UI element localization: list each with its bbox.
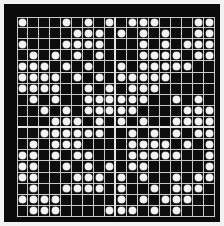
grid-cell-r1-c12[interactable] (138, 17, 149, 28)
grid-cell-r15-c10[interactable] (116, 173, 127, 184)
grid-cell-r15-c1[interactable] (17, 173, 28, 184)
grid-cell-r5-c9[interactable] (105, 61, 116, 72)
grid-cell-r9-c3[interactable] (39, 106, 50, 117)
grid-cell-r13-c14[interactable] (160, 150, 171, 161)
grid-cell-r13-c15[interactable] (171, 150, 182, 161)
grid-cell-r3-c18[interactable] (204, 39, 215, 50)
grid-cell-r13-c17[interactable] (193, 150, 204, 161)
grid-cell-r12-c13[interactable] (149, 139, 160, 150)
grid-cell-r10-c5[interactable] (61, 117, 72, 128)
grid-cell-r11-c6[interactable] (72, 128, 83, 139)
grid-cell-r12-c8[interactable] (94, 139, 105, 150)
grid-cell-r17-c2[interactable] (28, 195, 39, 206)
grid-cell-r8-c4[interactable] (50, 95, 61, 106)
grid-cell-r18-c8[interactable] (94, 206, 105, 217)
grid-cell-r17-c5[interactable] (61, 195, 72, 206)
grid-cell-r2-c14[interactable] (160, 28, 171, 39)
grid-cell-r3-c5[interactable] (61, 39, 72, 50)
grid-cell-r6-c7[interactable] (83, 73, 94, 84)
grid-cell-r17-c17[interactable] (193, 195, 204, 206)
grid-cell-r17-c4[interactable] (50, 195, 61, 206)
grid-cell-r1-c3[interactable] (39, 17, 50, 28)
grid-cell-r12-c16[interactable] (182, 139, 193, 150)
grid-cell-r13-c5[interactable] (61, 150, 72, 161)
grid-cell-r8-c14[interactable] (160, 95, 171, 106)
grid-cell-r6-c16[interactable] (182, 73, 193, 84)
grid-cell-r16-c15[interactable] (171, 184, 182, 195)
grid-cell-r6-c15[interactable] (171, 73, 182, 84)
grid-cell-r18-c5[interactable] (61, 206, 72, 217)
grid-cell-r7-c5[interactable] (61, 84, 72, 95)
grid-cell-r14-c12[interactable] (138, 161, 149, 172)
grid-cell-r12-c10[interactable] (116, 139, 127, 150)
grid-cell-r1-c2[interactable] (28, 17, 39, 28)
grid-cell-r13-c8[interactable] (94, 150, 105, 161)
grid-cell-r10-c11[interactable] (127, 117, 138, 128)
grid-cell-r12-c11[interactable] (127, 139, 138, 150)
grid-cell-r8-c6[interactable] (72, 95, 83, 106)
grid-cell-r9-c13[interactable] (149, 106, 160, 117)
grid-cell-r11-c18[interactable] (204, 128, 215, 139)
grid-cell-r18-c6[interactable] (72, 206, 83, 217)
grid-cell-r17-c3[interactable] (39, 195, 50, 206)
grid-cell-r9-c1[interactable] (17, 106, 28, 117)
grid-cell-r3-c10[interactable] (116, 39, 127, 50)
grid-cell-r4-c7[interactable] (83, 50, 94, 61)
grid-cell-r16-c18[interactable] (204, 184, 215, 195)
grid-cell-r5-c1[interactable] (17, 61, 28, 72)
grid-cell-r10-c17[interactable] (193, 117, 204, 128)
grid-cell-r7-c12[interactable] (138, 84, 149, 95)
grid-cell-r5-c12[interactable] (138, 61, 149, 72)
grid-cell-r13-c4[interactable] (50, 150, 61, 161)
grid-cell-r2-c18[interactable] (204, 28, 215, 39)
grid-cell-r11-c3[interactable] (39, 128, 50, 139)
grid-cell-r7-c13[interactable] (149, 84, 160, 95)
grid-cell-r16-c6[interactable] (72, 184, 83, 195)
grid-cell-r11-c1[interactable] (17, 128, 28, 139)
grid-cell-r12-c15[interactable] (171, 139, 182, 150)
grid-cell-r5-c11[interactable] (127, 61, 138, 72)
grid-cell-r18-c1[interactable] (17, 206, 28, 217)
grid-cell-r8-c9[interactable] (105, 95, 116, 106)
grid-cell-r13-c7[interactable] (83, 150, 94, 161)
grid-cell-r13-c11[interactable] (127, 150, 138, 161)
grid-cell-r9-c15[interactable] (171, 106, 182, 117)
grid-cell-r3-c1[interactable] (17, 39, 28, 50)
grid-cell-r14-c16[interactable] (182, 161, 193, 172)
grid-cell-r9-c18[interactable] (204, 106, 215, 117)
grid-cell-r8-c8[interactable] (94, 95, 105, 106)
grid-cell-r10-c14[interactable] (160, 117, 171, 128)
grid-cell-r4-c14[interactable] (160, 50, 171, 61)
grid-cell-r6-c12[interactable] (138, 73, 149, 84)
grid-cell-r11-c5[interactable] (61, 128, 72, 139)
grid-cell-r10-c6[interactable] (72, 117, 83, 128)
grid-cell-r4-c13[interactable] (149, 50, 160, 61)
grid-cell-r11-c10[interactable] (116, 128, 127, 139)
grid-cell-r8-c18[interactable] (204, 95, 215, 106)
grid-cell-r2-c16[interactable] (182, 28, 193, 39)
grid-cell-r8-c2[interactable] (28, 95, 39, 106)
grid-cell-r2-c4[interactable] (50, 28, 61, 39)
grid-cell-r18-c17[interactable] (193, 206, 204, 217)
grid-cell-r1-c14[interactable] (160, 17, 171, 28)
grid-cell-r12-c3[interactable] (39, 139, 50, 150)
grid-cell-r13-c6[interactable] (72, 150, 83, 161)
grid-cell-r4-c11[interactable] (127, 50, 138, 61)
grid-cell-r11-c2[interactable] (28, 128, 39, 139)
grid-cell-r8-c17[interactable] (193, 95, 204, 106)
grid-cell-r14-c3[interactable] (39, 161, 50, 172)
grid-cell-r17-c18[interactable] (204, 195, 215, 206)
grid-cell-r13-c12[interactable] (138, 150, 149, 161)
grid-cell-r17-c14[interactable] (160, 195, 171, 206)
grid-cell-r12-c5[interactable] (61, 139, 72, 150)
grid-cell-r16-c9[interactable] (105, 184, 116, 195)
grid-cell-r4-c12[interactable] (138, 50, 149, 61)
grid-cell-r16-c10[interactable] (116, 184, 127, 195)
grid-cell-r17-c13[interactable] (149, 195, 160, 206)
grid-cell-r14-c15[interactable] (171, 161, 182, 172)
grid-cell-r3-c13[interactable] (149, 39, 160, 50)
grid-cell-r7-c7[interactable] (83, 84, 94, 95)
grid-cell-r11-c14[interactable] (160, 128, 171, 139)
grid-cell-r2-c5[interactable] (61, 28, 72, 39)
grid-cell-r4-c17[interactable] (193, 50, 204, 61)
